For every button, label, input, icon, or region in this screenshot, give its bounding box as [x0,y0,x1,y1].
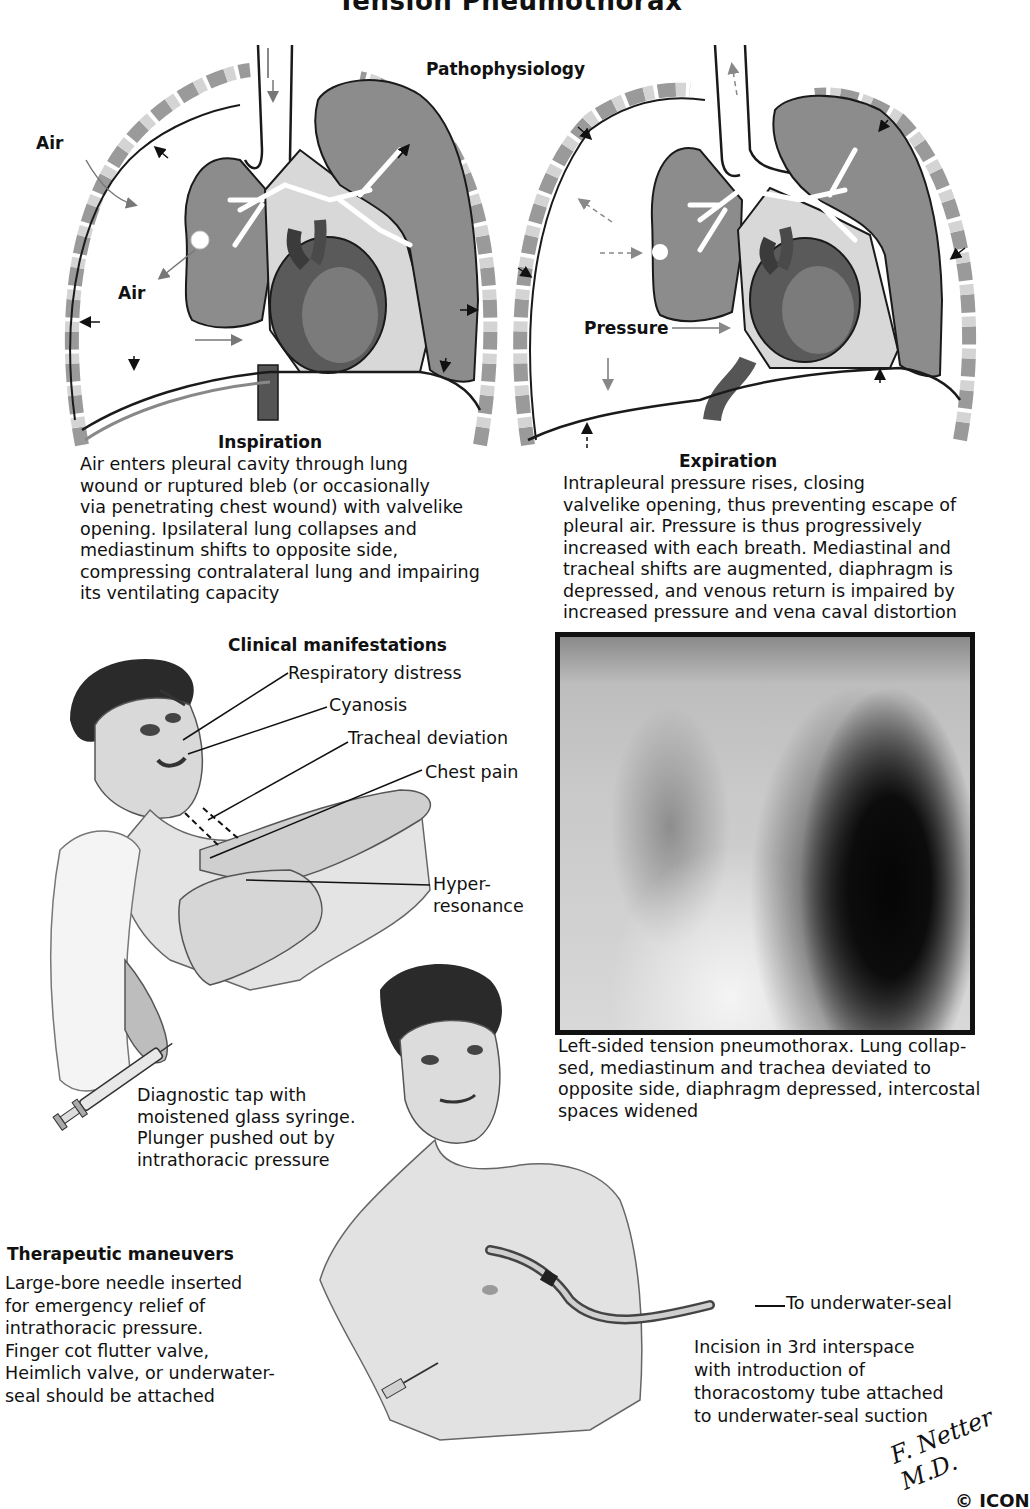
expiration-description: Intrapleural pressure rises, closing val… [563,473,1013,624]
tube-leader-line [755,1305,785,1307]
sign-tracheal-deviation: Tracheal deviation [348,728,508,748]
sign-chest-pain: Chest pain [425,762,518,782]
patient-treatment-illustration [290,950,720,1470]
expiration-thorax-illustration [500,0,1020,460]
expiration-diagram: Pressure [500,0,1020,460]
pressure-label: Pressure [584,318,669,338]
needle-decompression-text: Large-bore needle inserted for emergency… [5,1272,295,1407]
air-label-outer: Air [36,133,63,153]
inspiration-description: Air enters pleural cavity through lung w… [80,454,500,605]
incision-text: Incision in 3rd interspace with introduc… [694,1336,994,1428]
tube-label: To underwater-seal [786,1293,952,1313]
therapeutic-heading: Therapeutic maneuvers [7,1244,234,1264]
expiration-heading: Expiration [679,451,777,471]
sign-respiratory-distress: Respiratory distress [288,663,462,683]
sign-cyanosis: Cyanosis [329,695,407,715]
copyright-logo: © ICON [955,1490,1030,1509]
sign-hyperresonance: Hyper- resonance [433,873,524,917]
air-label-inner: Air [118,283,145,303]
inspiration-diagram: Air Air [0,0,520,460]
inspiration-heading: Inspiration [218,432,322,452]
inspiration-thorax-illustration [0,0,520,460]
